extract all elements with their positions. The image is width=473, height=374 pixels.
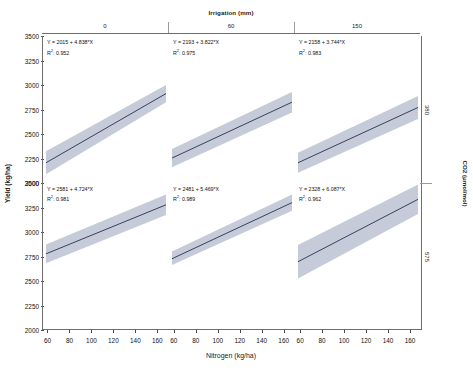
x-tick-label: 140	[130, 337, 141, 344]
x-tick-label: 80	[319, 337, 326, 344]
x-tick-label: 120	[108, 337, 119, 344]
panel-co2-575-irr-150: Y = 2328 + 6.087*X R2: 0.962	[295, 183, 421, 330]
equation-text: Y = 2193 + 3.822*X	[173, 39, 219, 45]
equation-text: Y = 2015 + 4.838*X	[47, 39, 93, 45]
regression-line	[46, 204, 166, 253]
x-tick-label: 80	[66, 337, 73, 344]
x-tick-mark	[284, 330, 285, 333]
x-axis-title: Nitrogen (kg/ha)	[42, 352, 420, 359]
confidence-band	[172, 92, 292, 167]
x-tick-label: 60	[44, 337, 51, 344]
strip-row-0: 380	[421, 36, 433, 183]
x-tick-mark	[388, 330, 389, 333]
panel-plot	[43, 36, 169, 183]
equation-text: Y = 2581 + 4.724*X	[47, 186, 93, 192]
panel-equation: Y = 2193 + 3.822*X R2: 0.975	[173, 39, 219, 57]
panel-grid: Y = 2015 + 4.838*X R2: 0.952 Y = 2193 + …	[42, 36, 421, 330]
panel-co2-575-irr-0: Y = 2581 + 4.724*X R2: 0.981	[43, 183, 169, 330]
x-tick-label: 160	[405, 337, 416, 344]
r2-text: R2: 0.962	[299, 193, 345, 203]
x-tick-mark	[113, 330, 114, 333]
confidence-band	[172, 194, 292, 265]
panel-co2-380-irr-60: Y = 2193 + 3.822*X R2: 0.975	[169, 36, 295, 183]
x-tick-mark	[91, 330, 92, 333]
y-tick-label: 2250	[25, 302, 39, 309]
equation-text: Y = 2158 + 3.744*X	[299, 39, 345, 45]
confidence-band	[46, 194, 166, 263]
regression-facet-chart: Irrigation (mm) 0 60 150 Yield (kg/ha) 3…	[0, 0, 473, 374]
regression-line	[172, 102, 292, 158]
regression-line	[46, 94, 166, 163]
x-tick-label: 120	[234, 337, 245, 344]
x-tick-label: 140	[256, 337, 267, 344]
x-tick-mark	[366, 330, 367, 333]
y-tick-labels: 3500325030002750250022502000350032503000…	[13, 0, 41, 374]
panel-co2-380-irr-0: Y = 2015 + 4.838*X R2: 0.952	[43, 36, 169, 183]
y-axis-title: Yield (kg/ha)	[1, 36, 13, 330]
y-tick-label: 3500	[25, 180, 39, 187]
r2-text: R2: 0.975	[173, 47, 219, 57]
y-tick-label: 2750	[25, 106, 39, 113]
panel-plot	[169, 36, 295, 183]
x-tick-label: 100	[212, 337, 223, 344]
regression-line	[172, 202, 292, 258]
x-tick-label: 60	[170, 337, 177, 344]
panel-plot	[295, 36, 421, 183]
x-tick-mark	[262, 330, 263, 333]
x-tick-label: 100	[86, 337, 97, 344]
panel-plot	[43, 183, 169, 330]
strip-row-1: 575	[421, 183, 433, 330]
r2-text: R2: 0.983	[299, 47, 345, 57]
panel-co2-575-irr-60: Y = 2481 + 5.469*X R2: 0.989	[169, 183, 295, 330]
x-tick-label: 120	[361, 337, 372, 344]
r2-text: R2: 0.981	[47, 193, 93, 203]
x-tick-mark	[344, 330, 345, 333]
x-tick-mark	[322, 330, 323, 333]
top-axis-title: Irrigation (mm)	[42, 9, 420, 16]
panel-equation: Y = 2481 + 5.469*X R2: 0.989	[173, 186, 219, 204]
column-strip: 0 60 150	[42, 21, 420, 33]
y-tick-label: 2500	[25, 278, 39, 285]
r2-text: R2: 0.952	[47, 47, 93, 57]
panel-row-575: Y = 2581 + 4.724*X R2: 0.981 Y = 2481 + …	[43, 183, 421, 330]
x-tick-mark	[218, 330, 219, 333]
y-tick-label: 3000	[25, 229, 39, 236]
confidence-band	[46, 85, 166, 174]
y-tick-label: 3250	[25, 57, 39, 64]
panel-equation: Y = 2158 + 3.744*X R2: 0.983	[299, 39, 345, 57]
y-axis-title-text: Yield (kg/ha)	[4, 164, 11, 203]
x-tick-label: 60	[297, 337, 304, 344]
row-strip: 380 575	[421, 36, 433, 330]
strip-col-0: 0	[42, 21, 168, 33]
top-axis-rule	[42, 33, 420, 34]
panel-row-380: Y = 2015 + 4.838*X R2: 0.952 Y = 2193 + …	[43, 36, 421, 183]
x-tick-mark	[196, 330, 197, 333]
panel-plot	[169, 183, 295, 330]
confidence-band	[298, 96, 418, 173]
y-tick-label: 3000	[25, 82, 39, 89]
x-tick-label: 100	[339, 337, 350, 344]
x-tick-mark	[240, 330, 241, 333]
panel-equation: Y = 2015 + 4.838*X R2: 0.952	[47, 39, 93, 57]
equation-text: Y = 2328 + 6.087*X	[299, 186, 345, 192]
panel-equation: Y = 2581 + 4.724*X R2: 0.981	[47, 186, 93, 204]
regression-line	[298, 199, 418, 261]
strip-col-2: 150	[294, 21, 420, 33]
panel-equation: Y = 2328 + 6.087*X R2: 0.962	[299, 186, 345, 204]
x-tick-mark	[69, 330, 70, 333]
equation-text: Y = 2481 + 5.469*X	[173, 186, 219, 192]
x-tick-mark	[157, 330, 158, 333]
x-tick-mark	[47, 330, 48, 333]
x-tick-mark	[174, 330, 175, 333]
r2-text: R2: 0.989	[173, 193, 219, 203]
x-tick-label: 140	[383, 337, 394, 344]
right-axis-title: CO2 (μmol/mol)	[459, 36, 471, 330]
y-tick-label: 3250	[25, 204, 39, 211]
regression-line	[298, 107, 418, 162]
y-tick-label: 3500	[25, 33, 39, 40]
x-tick-mark	[135, 330, 136, 333]
y-tick-label: 2250	[25, 155, 39, 162]
panel-co2-380-irr-150: Y = 2158 + 3.744*X R2: 0.983	[295, 36, 421, 183]
y-tick-label: 2750	[25, 253, 39, 260]
strip-col-1: 60	[168, 21, 294, 33]
